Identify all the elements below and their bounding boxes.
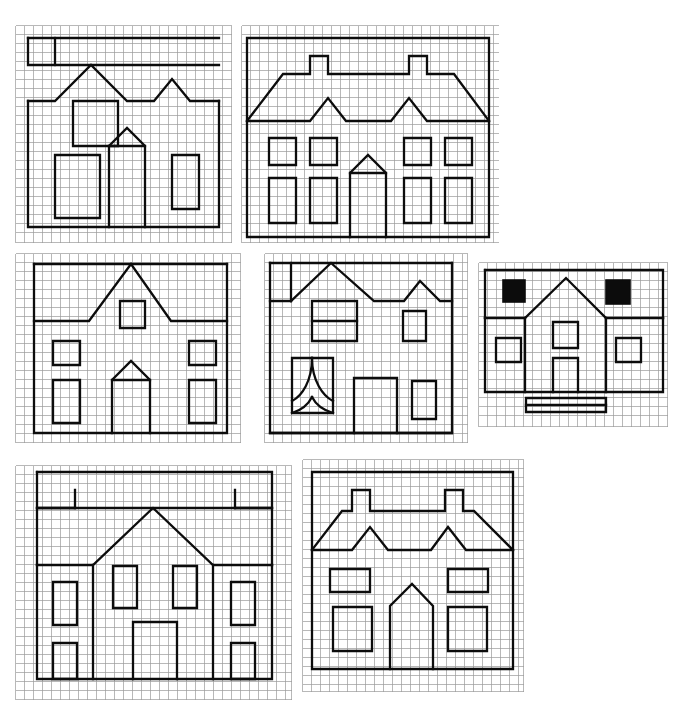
house-outline-6 bbox=[37, 472, 272, 679]
house-outline-5 bbox=[485, 270, 663, 412]
grid-7 bbox=[303, 460, 524, 692]
house-drawing-2[interactable] bbox=[241, 25, 499, 243]
house-drawing-5[interactable] bbox=[478, 262, 668, 427]
grid-3 bbox=[16, 254, 241, 443]
black-square-left bbox=[503, 280, 525, 302]
house-drawing-3[interactable] bbox=[15, 253, 241, 443]
worksheet-canvas bbox=[0, 0, 681, 719]
house-drawing-4[interactable] bbox=[264, 253, 468, 443]
black-square-right bbox=[606, 280, 630, 304]
house-drawing-7[interactable] bbox=[302, 459, 524, 692]
grid-2 bbox=[242, 26, 499, 243]
house-outline-2 bbox=[247, 38, 489, 237]
house-outline-4 bbox=[270, 263, 452, 433]
house-drawing-6[interactable] bbox=[15, 465, 292, 700]
house-drawing-1[interactable] bbox=[15, 25, 232, 243]
